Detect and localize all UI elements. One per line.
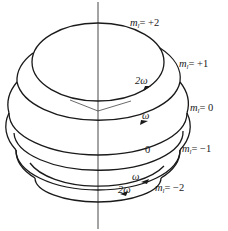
orbit-ml-minus1-upper-front [14,131,183,170]
label-ml-0: ml= 0 [190,102,213,115]
orbit-ml-plus1-left-top [17,53,33,82]
precession-diagram: ml= +2 ml= +1 ml= 0 ml= −1 ml= −2 2ω ω 0… [0,0,228,231]
orbit-ml-0-left-side [8,82,17,113]
freq-label-omega-bottom: ω [132,171,139,182]
orbit-ml-0-right-side [180,82,188,113]
angular-momentum-cone [70,100,131,111]
freq-label-2omega-top: 2ω [135,75,148,86]
label-ml-minus1: ml= −1 [182,143,211,156]
orbit-ml-minus1-left-side [6,113,16,150]
freq-label-omega-mid: ω [142,110,149,121]
label-ml-plus1: ml= +1 [179,58,208,71]
freq-label-2omega-bottom: 2ω [118,184,131,195]
label-ml-plus2: ml= +2 [130,17,159,30]
freq-label-zero: 0 [145,144,150,155]
label-ml-minus2: ml= −2 [155,182,184,195]
